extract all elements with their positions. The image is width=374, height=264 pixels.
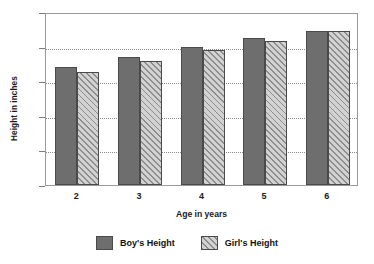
bar-chart: Height in inches Age in years 0102030405…: [0, 0, 374, 264]
x-axis-tick-label: 4: [182, 191, 222, 201]
solid-gray-swatch: [96, 236, 113, 250]
bar-girl-age-5: [265, 41, 287, 185]
bar-boy-age-4: [181, 47, 203, 185]
bar-boy-age-3: [118, 57, 140, 185]
legend: Boy's HeightGirl's Height: [0, 236, 374, 250]
bar-boy-age-2: [55, 67, 77, 185]
legend-item: Girl's Height: [201, 236, 278, 250]
x-axis-tick-label: 3: [119, 191, 159, 201]
x-axis-tick-label: 5: [244, 191, 284, 201]
bar-girl-age-3: [140, 61, 162, 185]
legend-item: Boy's Height: [96, 236, 175, 250]
bar-boy-age-6: [306, 31, 328, 185]
bar-girl-age-4: [203, 50, 225, 185]
bar-girl-age-2: [77, 72, 99, 185]
bar-girl-age-6: [328, 31, 350, 185]
x-axis-title: Age in years: [45, 209, 358, 219]
bar-boy-age-5: [243, 38, 265, 185]
y-axis-tick-mark: [39, 186, 45, 187]
legend-label: Boy's Height: [120, 238, 175, 248]
plot-area: [45, 13, 358, 186]
hatched-gray-swatch: [201, 236, 218, 250]
legend-label: Girl's Height: [225, 238, 278, 248]
x-axis-tick-label: 6: [307, 191, 347, 201]
y-axis-title: Height in inches: [10, 54, 19, 164]
x-axis-tick-label: 2: [56, 191, 96, 201]
